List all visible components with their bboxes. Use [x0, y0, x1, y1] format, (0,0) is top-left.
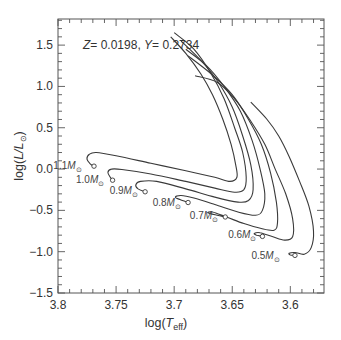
track-1_1-msun: 1.1M⊙	[53, 37, 237, 182]
track-line	[175, 49, 265, 215]
y-tick-label: 1.0	[36, 79, 53, 93]
zams-marker-icon	[110, 178, 114, 182]
x-axis-label: log(Teff)	[145, 316, 188, 332]
track-0_5-msun: 0.5M⊙	[251, 102, 314, 263]
y-tick-label: −1.5	[29, 286, 53, 300]
x-tick-label: 3.7	[166, 298, 183, 312]
zams-marker-icon	[186, 200, 190, 204]
mass-label: 1.0M⊙	[76, 174, 104, 187]
hr-diagram-chart: 1.1M⊙1.0M⊙0.9M⊙0.8M⊙0.7M⊙0.6M⊙0.5M⊙ 3.83…	[0, 0, 341, 340]
composition-annotation: Z= 0.0198, Y= 0.2734	[82, 38, 199, 52]
y-tick-label: −0.5	[29, 203, 53, 217]
x-tick-label: 3.65	[221, 298, 245, 312]
x-tick-label: 3.6	[282, 298, 299, 312]
zams-marker-icon	[260, 234, 264, 238]
x-tick-labels: 3.83.753.73.653.6	[50, 298, 299, 312]
evolutionary-tracks: 1.1M⊙1.0M⊙0.9M⊙0.8M⊙0.7M⊙0.6M⊙0.5M⊙	[53, 33, 313, 263]
x-label-pre: log(	[145, 316, 167, 330]
y-label-post: )	[12, 131, 26, 135]
y-axis-label: log(L/L⊙)	[12, 131, 28, 180]
track-0_8-msun: 0.8M⊙	[153, 49, 265, 215]
mass-label: 0.9M⊙	[110, 185, 138, 198]
x-tick-label: 3.8	[50, 298, 67, 312]
x-tick-label: 3.75	[104, 298, 128, 312]
mass-label: 0.6M⊙	[228, 229, 256, 242]
y-value: = 0.2734	[152, 38, 199, 52]
zams-marker-icon	[143, 190, 147, 194]
mass-label: 0.5M⊙	[251, 250, 279, 263]
y-tick-label: −1.0	[29, 245, 53, 259]
track-0_9-msun: 0.9M⊙	[110, 41, 253, 202]
y-label-subscript: ⊙	[19, 135, 28, 142]
x-label-subscript: eff	[173, 322, 183, 332]
zams-marker-icon	[92, 164, 96, 168]
zams-marker-icon	[293, 253, 297, 257]
chart-svg: 1.1M⊙1.0M⊙0.9M⊙0.8M⊙0.7M⊙0.6M⊙0.5M⊙ 3.83…	[0, 0, 341, 340]
mass-label: 0.8M⊙	[153, 197, 181, 210]
y-label-symbol: L/L	[12, 142, 26, 159]
y-tick-label: 0.0	[36, 162, 53, 176]
y-tick-label: 0.5	[36, 121, 53, 135]
y-tick-labels: 1.51.00.50.0−0.5−1.0−1.5	[29, 38, 53, 300]
x-label-post: )	[183, 316, 187, 330]
y-tick-label: 1.5	[36, 38, 53, 52]
z-value: = 0.0198,	[90, 38, 144, 52]
y-label-pre: log(	[12, 159, 26, 181]
zams-marker-icon	[223, 215, 227, 219]
track-line	[87, 37, 237, 182]
